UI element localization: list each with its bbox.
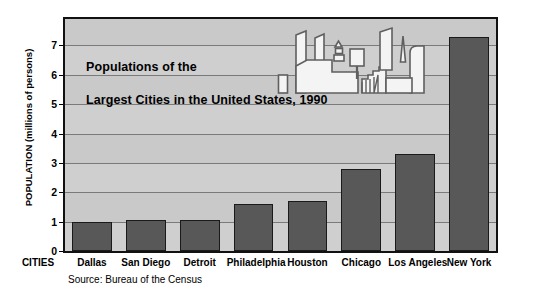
x-tick-label: San Diego <box>119 257 173 268</box>
x-tick-label: Los Angeles <box>388 257 442 268</box>
source-caption: Source: Bureau of the Census <box>68 274 202 285</box>
y-tick-label: 3 <box>35 158 57 169</box>
plot-band <box>65 104 496 133</box>
bar <box>341 169 381 251</box>
bar <box>234 204 274 251</box>
bar <box>395 154 435 251</box>
bar <box>449 37 489 251</box>
bar <box>288 201 328 251</box>
x-tick-label: Houston <box>281 257 335 268</box>
x-axis-title: CITIES <box>12 257 64 268</box>
x-tick-label: Dallas <box>65 257 119 268</box>
y-tick-label: 7 <box>35 40 57 51</box>
y-axis-title: POPULATION (millions of persons) <box>23 8 34 248</box>
bar <box>126 220 166 251</box>
y-tick-label: 1 <box>35 216 57 227</box>
bar <box>72 222 112 251</box>
y-tick-label: 4 <box>35 128 57 139</box>
chart-title-line-1: Populations of the <box>86 60 328 74</box>
y-tick-label: 0 <box>35 246 57 257</box>
x-tick-label: Chicago <box>334 257 388 268</box>
y-tick-label: 5 <box>35 99 57 110</box>
bar <box>180 220 220 251</box>
gridline <box>65 45 496 46</box>
y-tick-label: 2 <box>35 187 57 198</box>
plot-area <box>63 17 498 253</box>
x-tick-label: New York <box>442 257 496 268</box>
x-tick-label: Philadelphia <box>227 257 281 268</box>
gridline <box>65 134 496 135</box>
y-tick-label: 6 <box>35 70 57 81</box>
chart-title: Populations of the Largest Cities in the… <box>86 60 328 107</box>
x-tick-label: Detroit <box>173 257 227 268</box>
chart-title-line-2: Largest Cities in the United States, 199… <box>86 93 328 107</box>
chart-figure: POPULATION (millions of persons) 0123456… <box>0 0 535 302</box>
